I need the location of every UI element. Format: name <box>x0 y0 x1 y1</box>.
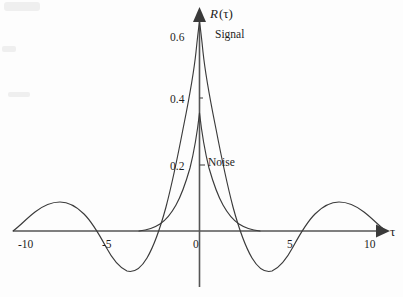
y-tick-label-0.2: 0.2 <box>170 160 185 172</box>
signal-series-label: Signal <box>215 28 244 41</box>
y-axis-label-tau-paren: (τ) <box>219 6 233 21</box>
y-axis-label: R (τ) <box>209 6 233 21</box>
noise-series-label: Noise <box>208 156 235 168</box>
x-axis-label: τ <box>390 224 395 239</box>
x-tick-label-0: 0 <box>193 238 199 250</box>
x-tick-label-5: 5 <box>287 238 293 250</box>
chart-svg: 0.6 0.4 0.2 -10 -5 0 5 10 R (τ) τ Signal… <box>0 0 403 297</box>
scan-artifacts <box>2 2 40 97</box>
y-tick-label-0.4: 0.4 <box>170 93 185 105</box>
correlation-function-chart: 0.6 0.4 0.2 -10 -5 0 5 10 R (τ) τ Signal… <box>0 0 403 297</box>
x-tick-label--10: -10 <box>18 238 34 250</box>
x-tick-label--5: -5 <box>102 238 112 250</box>
y-axis-label-r: R <box>209 6 218 21</box>
x-axis <box>13 225 390 238</box>
y-tick-label-0.6: 0.6 <box>170 31 185 43</box>
x-tick-label-10: 10 <box>364 238 376 250</box>
